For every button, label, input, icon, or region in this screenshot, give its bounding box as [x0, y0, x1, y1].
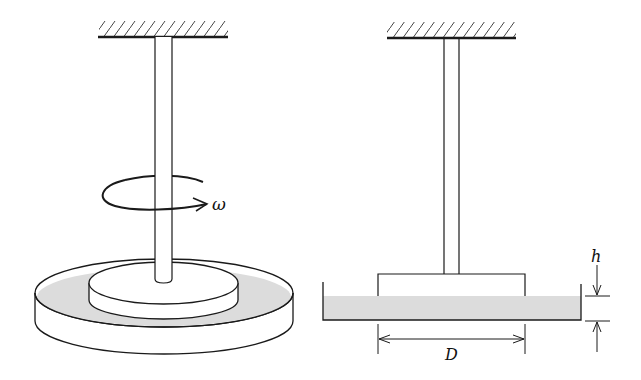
shaft-right [444, 38, 459, 274]
perspective-view: ω [35, 21, 293, 354]
gap-dimension [585, 265, 610, 352]
diameter-d-label: D [444, 345, 458, 364]
gap-h-label: h [591, 247, 601, 266]
viscometer-diagram: ω h [0, 0, 641, 380]
ceiling-support-left [98, 21, 228, 37]
fluid-layer [323, 296, 581, 320]
omega-label: ω [212, 194, 226, 214]
cross-section-view: h D [323, 22, 610, 364]
shaft-left [155, 37, 172, 283]
disk-section [378, 274, 525, 296]
ceiling-support-right [387, 22, 516, 38]
